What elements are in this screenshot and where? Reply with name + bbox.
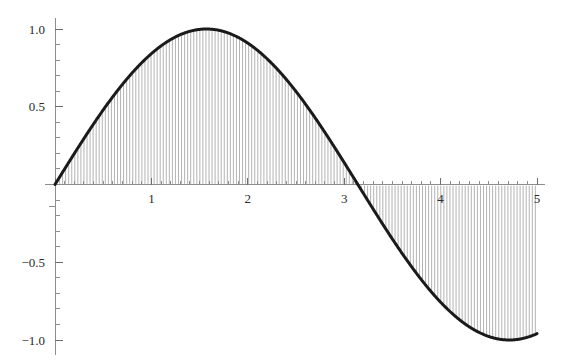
x-tick-label: 1 [148,191,155,206]
y-tick-label: −1.0 [21,333,45,348]
axes-group [45,18,545,355]
y-tick-label: 1.0 [29,22,45,37]
x-tick-label: 4 [437,191,444,206]
sine-plot: 123451.00.5−0.5−1.0 [0,0,569,361]
y-tick-label: 0.5 [29,99,45,114]
x-tick-label: 5 [534,191,541,206]
x-tick-label: 3 [341,191,348,206]
y-tick-label: −0.5 [21,255,45,270]
x-tick-label: 2 [245,191,252,206]
chart-canvas: 123451.00.5−0.5−1.0 [0,0,569,361]
